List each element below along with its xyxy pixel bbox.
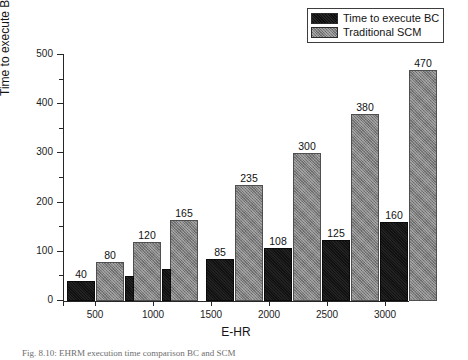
- bar-value-scm-1000: 165: [175, 207, 193, 219]
- y-tick-500: 500: [57, 54, 63, 55]
- bar-bc-3000: 160: [380, 222, 408, 301]
- bar-value-bc-500: 40: [75, 268, 87, 280]
- bar-value-bc-2000: 108: [269, 235, 287, 247]
- y-tick-label-100: 100: [36, 244, 53, 257]
- y-tick-minor-450: [59, 79, 63, 80]
- bar-value-scm-2000: 300: [298, 140, 316, 152]
- legend-label-time-to-execute-bc: Time to execute BC: [343, 12, 439, 24]
- legend-swatch-gray-icon: [311, 27, 338, 38]
- y-tick-label-200: 200: [36, 195, 53, 208]
- x-tick-label-500: 500: [87, 308, 104, 321]
- bar-value-scm-1500: 235: [240, 172, 258, 184]
- y-tick-minor-50: [59, 275, 63, 276]
- x-tick-label-1000: 1000: [142, 308, 164, 321]
- x-axis-title: E-HR: [63, 325, 409, 339]
- bar-value-scm-500-extra: 120: [138, 229, 156, 241]
- x-tick-2000: [269, 301, 270, 306]
- y-tick-minor-250: [59, 177, 63, 178]
- legend-label-traditional-scm: Traditional SCM: [343, 26, 421, 38]
- bar-scm-3000: 470: [409, 70, 437, 301]
- x-tick-500: [95, 301, 96, 306]
- bar-bc-1000: [162, 269, 171, 301]
- x-tick-label-2000: 2000: [258, 308, 280, 321]
- x-tick-1500: [211, 301, 212, 306]
- bar-bc-500-extra: [125, 276, 134, 301]
- bar-value-bc-1500: 85: [214, 246, 226, 258]
- bar-bc-2500: 125: [322, 240, 350, 302]
- x-tick-3000: [385, 301, 386, 306]
- y-tick-400: 400: [57, 103, 63, 104]
- bar-scm-2000: 300: [293, 153, 321, 301]
- legend-swatch-black-icon: [311, 13, 338, 24]
- bar-value-bc-2500: 125: [327, 227, 345, 239]
- y-tick-100: 100: [57, 251, 63, 252]
- bar-value-bc-3000: 160: [385, 209, 403, 221]
- plot-area: 0 100 200 300 400 500 500 1000 1500: [63, 55, 408, 301]
- x-tick-label-3000: 3000: [374, 308, 396, 321]
- y-tick-label-300: 300: [36, 145, 53, 158]
- bar-scm-500: 80: [96, 262, 124, 301]
- x-tick-edge-left: [63, 301, 64, 306]
- x-tick-label-1500: 1500: [200, 308, 222, 321]
- bar-value-scm-3000: 470: [414, 57, 432, 69]
- x-tick-1000: [153, 301, 154, 306]
- x-tick-2500: [327, 301, 328, 306]
- y-tick-label-500: 500: [36, 47, 53, 60]
- bar-scm-2500: 380: [351, 114, 379, 301]
- bar-value-scm-500: 80: [104, 249, 116, 261]
- y-axis-title: Time to execute BC (Mins): [0, 0, 12, 96]
- y-tick-label-0: 0: [47, 293, 53, 306]
- bar-scm-1500: 235: [235, 185, 263, 301]
- x-axis-line: [63, 301, 409, 302]
- legend-item-time-to-execute-bc: Time to execute BC: [311, 11, 439, 25]
- bar-scm-500-extra: 120: [133, 242, 161, 301]
- bar-bc-2000: 108: [264, 248, 292, 301]
- bar-bc-1500: 85: [206, 259, 234, 301]
- bar-chart-figure: Time to execute BC Traditional SCM 0 100…: [0, 0, 468, 360]
- legend-item-traditional-scm: Traditional SCM: [311, 25, 439, 39]
- y-tick-300: 300: [57, 152, 63, 153]
- chart-legend: Time to execute BC Traditional SCM: [307, 8, 444, 43]
- y-tick-minor-150: [59, 226, 63, 227]
- figure-caption: Fig. 8.10: EHRM execution time compariso…: [22, 348, 452, 359]
- bar-bc-500: 40: [67, 281, 95, 301]
- y-tick-label-400: 400: [36, 96, 53, 109]
- y-tick-200: 200: [57, 202, 63, 203]
- bar-scm-1000: 165: [170, 220, 198, 301]
- bar-value-scm-2500: 380: [356, 101, 374, 113]
- y-tick-minor-350: [59, 128, 63, 129]
- x-tick-label-2500: 2500: [316, 308, 338, 321]
